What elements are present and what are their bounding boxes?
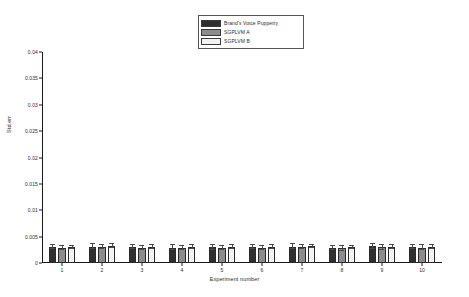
error-cap-lower [349,248,354,249]
error-cap-lower [99,248,104,249]
x-tick-label: 1 [61,267,64,273]
plot-area: 00.0050.010.0150.020.0250.030.0350.04 12… [42,52,442,263]
error-cap-upper [259,245,264,246]
error-cap-upper [330,245,335,246]
error-cap-lower [229,248,234,249]
error-cap-upper [410,244,415,245]
x-tick-label: 10 [419,267,425,273]
x-tick-label: 3 [141,267,144,273]
error-cap-upper [370,243,375,244]
error-cap-upper [339,245,344,246]
x-tick-label: 4 [181,267,184,273]
y-tick-mark [39,52,42,53]
bar [268,247,276,263]
bar [129,247,137,263]
bar [258,248,266,263]
error-cap-upper [269,244,274,245]
legend-item-1: SGPLVM A [201,28,301,36]
x-tick-label: 2 [101,267,104,273]
bar [49,247,57,263]
bar-group [169,52,196,263]
error-cap-upper [139,245,144,246]
bar [218,248,226,263]
y-axis-line [42,52,43,263]
error-cap-lower [370,248,375,249]
error-cap-lower [149,248,154,249]
error-cap-lower [189,248,194,249]
error-cap-upper [189,244,194,245]
error-cap-upper [419,244,424,245]
bar [428,247,436,263]
error-cap-upper [210,244,215,245]
bar [298,247,306,263]
error-cap-upper [170,244,175,245]
error-cap-lower [419,249,424,250]
x-tick-mark [342,263,343,266]
error-cap-upper [389,244,394,245]
y-tick-mark [39,104,42,105]
legend-label-1: SGPLVM A [224,29,250,36]
bar [108,246,116,263]
error-cap-upper [69,245,74,246]
bar-group [249,52,276,263]
x-tick-mark [382,263,383,266]
x-axis-title: Experiment number [0,276,469,282]
bar [348,247,356,263]
x-tick-mark [142,263,143,266]
bar [369,246,377,263]
bar [188,247,196,263]
bar-group [89,52,116,263]
bar [89,247,97,263]
error-cap-lower [299,248,304,249]
error-cap-lower [250,248,255,249]
legend-swatch-icon-2 [201,38,221,45]
legend-label-0: Brand's Voice Puppetry [224,20,278,27]
bar [388,247,396,263]
error-cap-lower [130,248,135,249]
error-cap-lower [379,249,384,250]
error-cap-lower [339,250,344,251]
x-tick-mark [422,263,423,266]
bar-group [369,52,396,263]
y-tick-mark [39,131,42,132]
error-cap-lower [269,248,274,249]
x-tick-label: 8 [341,267,344,273]
error-cap-upper [349,245,354,246]
y-tick-mark [39,157,42,158]
error-cap-lower [219,249,224,250]
bar [329,248,337,263]
legend-swatch-icon-0 [201,20,221,27]
bar [228,247,236,263]
x-tick-mark [302,263,303,266]
x-tick-mark [102,263,103,266]
bar [308,246,316,263]
bar [98,247,106,263]
error-cap-lower [109,247,114,248]
error-cap-lower [259,249,264,250]
legend-label-2: SGPLVM B [224,38,250,45]
bar [169,248,177,263]
x-tick-label: 6 [261,267,264,273]
chart-legend: Brand's Voice Puppetry SGPLVM A SGPLVM B [198,15,304,49]
x-tick-mark [62,263,63,266]
error-cap-upper [299,244,304,245]
y-tick-mark [39,78,42,79]
error-cap-upper [309,244,314,245]
error-cap-upper [50,244,55,245]
error-cap-lower [410,248,415,249]
error-cap-lower [290,248,295,249]
bar [378,247,386,263]
bar-group [129,52,156,263]
bar-group [289,52,316,263]
bar [249,247,257,263]
bar [138,248,146,263]
error-cap-lower [59,249,64,250]
error-cap-lower [179,249,184,250]
error-cap-upper [149,244,154,245]
error-cap-lower [69,248,74,249]
error-cap-upper [109,243,114,244]
error-cap-upper [379,244,384,245]
x-tick-mark [262,263,263,266]
y-tick-mark [39,263,42,264]
bar-group [409,52,436,263]
